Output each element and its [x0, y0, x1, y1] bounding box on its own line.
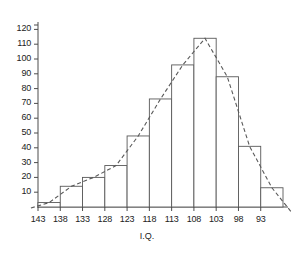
x-axis-tick-label: 98 [226, 214, 250, 224]
histogram-bar [194, 38, 216, 207]
y-axis-tick-label: 90 [9, 68, 31, 78]
y-axis-tick-label: 20 [9, 171, 31, 181]
x-axis-tick-label: 108 [182, 214, 206, 224]
histogram-bar [149, 99, 171, 207]
y-axis-tick-label: 110 [9, 38, 31, 48]
histogram-bar [38, 203, 60, 207]
y-axis-tick-label: 50 [9, 127, 31, 137]
histogram-bar [105, 166, 127, 207]
histogram-bar [261, 188, 283, 207]
x-axis-tick-label: 138 [48, 214, 72, 224]
histogram-bar [216, 77, 238, 207]
y-axis-tick-label: 100 [9, 53, 31, 63]
histogram-bar [238, 146, 260, 207]
histogram-bar [60, 186, 82, 207]
y-axis-tick-label: 80 [9, 83, 31, 93]
y-axis-tick-label: 30 [9, 157, 31, 167]
y-axis-tick-label: 40 [9, 142, 31, 152]
x-axis-tick-label: 118 [137, 214, 161, 224]
y-axis-tick-label: 10 [9, 186, 31, 196]
y-axis-tick-label: 70 [9, 97, 31, 107]
x-axis-title: I.Q. [117, 231, 177, 241]
y-axis-tick-label: 60 [9, 112, 31, 122]
x-axis-tick-label: 128 [93, 214, 117, 224]
x-axis-tick-label: 93 [249, 214, 273, 224]
x-axis-tick-label: 133 [71, 214, 95, 224]
x-axis-tick-label: 103 [204, 214, 228, 224]
y-axis-tick-label: 120 [9, 23, 31, 33]
iq-frequency-chart: 102030405060708090100110120 143138133128… [0, 0, 293, 254]
x-axis-tick-label: 123 [115, 214, 139, 224]
histogram-bar [83, 177, 105, 207]
histogram-bar [172, 65, 194, 207]
x-axis-tick-label: 113 [160, 214, 184, 224]
x-axis-tick-label: 143 [26, 214, 50, 224]
